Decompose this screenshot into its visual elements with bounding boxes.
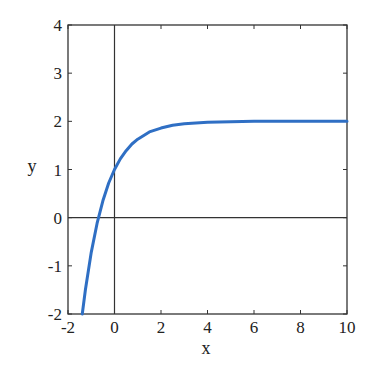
x-tick-label: 10 xyxy=(339,318,356,337)
axes-frame xyxy=(68,25,347,314)
x-tick-label: 8 xyxy=(296,318,305,337)
plot-area: -20246810 -2-101234 xyxy=(48,16,356,337)
y-tick-label: 0 xyxy=(54,209,63,228)
x-axis-label: x xyxy=(202,338,211,358)
x-ticks: -20246810 xyxy=(61,25,356,337)
y-tick-label: 4 xyxy=(54,16,63,35)
x-tick-label: 2 xyxy=(157,318,166,337)
x-tick-label: 0 xyxy=(110,318,119,337)
x-tick-label: 6 xyxy=(250,318,259,337)
x-tick-label: 4 xyxy=(203,318,212,337)
y-tick-label: 1 xyxy=(54,161,63,180)
chart-canvas: -20246810 -2-101234 x y xyxy=(0,0,369,366)
y-tick-label: 2 xyxy=(54,112,63,131)
y-axis-label: y xyxy=(28,156,37,176)
y-tick-label: -1 xyxy=(48,257,62,276)
y-ticks: -2-101234 xyxy=(48,16,347,324)
y-tick-label: -2 xyxy=(48,305,62,324)
y-tick-label: 3 xyxy=(54,64,63,83)
x-tick-label: -2 xyxy=(61,318,75,337)
